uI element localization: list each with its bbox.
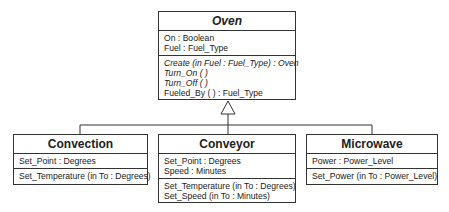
class-microwave: Microwave Power : Power_Level Set_Power … [306,134,438,185]
class-conveyor: Conveyor Set_Point : Degrees Speed : Min… [158,134,296,203]
attributes-section: Set_Point : Degrees [14,154,147,168]
attribute: Set_Point : Degrees [19,156,142,166]
attributes-section: On : Boolean Fuel : Fuel_Type [159,31,295,55]
operation: Turn_Off ( ) [164,78,290,88]
class-name: Conveyor [159,135,295,154]
attribute: Power : Power_Level [312,156,432,166]
class-convection: Convection Set_Point : Degrees Set_Tempe… [13,134,148,185]
attribute: On : Boolean [164,33,290,43]
generalization-arrow-icon [221,101,235,114]
operation: Set_Speed (in To : Minutes) [164,191,290,201]
operation: Set_Temperature (in To : Degrees) [19,171,142,181]
operation: Fueled_By ( ) : Fuel_Type [164,88,290,98]
operations-section: Set_Temperature (in To : Degrees) [14,168,147,183]
attribute: Fuel : Fuel_Type [164,43,290,53]
attributes-section: Power : Power_Level [307,154,437,168]
operations-section: Set_Temperature (in To : Degrees) Set_Sp… [159,178,295,203]
operation: Turn_On ( ) [164,68,290,78]
class-name: Convection [14,135,147,154]
operations-section: Set_Power (in To : Power_Level) [307,168,437,183]
class-name: Oven [159,12,295,31]
operation: Create (in Fuel : Fuel_Type) : Oven [164,58,290,68]
attribute: Speed : Minutes [164,166,290,176]
operations-section: Create (in Fuel : Fuel_Type) : Oven Turn… [159,55,295,100]
class-name: Microwave [307,135,437,154]
attribute: Set_Point : Degrees [164,156,290,166]
attributes-section: Set_Point : Degrees Speed : Minutes [159,154,295,178]
class-oven: Oven On : Boolean Fuel : Fuel_Type Creat… [158,11,296,100]
operation: Set_Temperature (in To : Degrees) [164,181,290,191]
operation: Set_Power (in To : Power_Level) [312,171,432,181]
